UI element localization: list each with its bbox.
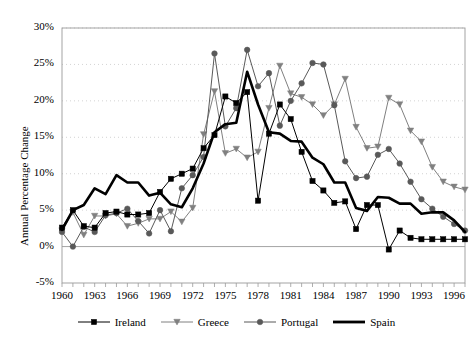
- legend-label: Portugal: [281, 316, 318, 328]
- legend-label: Ireland: [115, 316, 146, 328]
- legend-item-portugal[interactable]: Portugal: [243, 316, 318, 328]
- line-marker: [332, 316, 366, 328]
- legend-item-greece[interactable]: Greece: [160, 316, 229, 328]
- legend-item-ireland[interactable]: Ireland: [77, 316, 146, 328]
- legend-label: Greece: [198, 316, 229, 328]
- legend-item-spain[interactable]: Spain: [332, 316, 395, 328]
- chart-container: Annual Percentage Change 30%25%20%15%10%…: [0, 0, 472, 343]
- triangle-marker: [160, 316, 194, 328]
- series-spain: [62, 72, 465, 232]
- circle-marker: [243, 316, 277, 328]
- x-axis-ticks: [62, 283, 465, 287]
- legend-label: Spain: [370, 316, 395, 328]
- series-ireland: [59, 90, 467, 253]
- chart-legend: IrelandGreecePortugalSpain: [0, 316, 472, 328]
- square-marker: [77, 316, 111, 328]
- gridlines: [62, 28, 465, 247]
- plot-frame: [62, 28, 465, 283]
- plot-area: [0, 0, 472, 343]
